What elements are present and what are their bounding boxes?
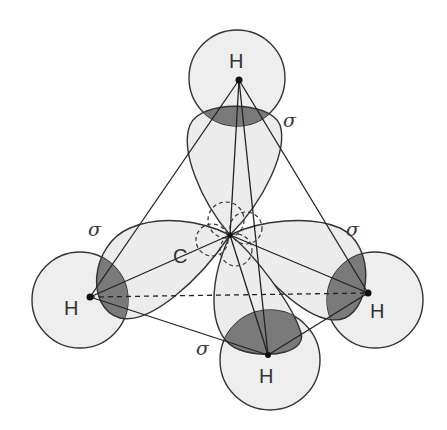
sigma-left: σ xyxy=(88,218,102,240)
label-h-bottom: H xyxy=(259,365,273,387)
h-bottom-nucleus xyxy=(265,352,271,358)
methane-orbital-diagram: H H H H C σ σ σ σ xyxy=(0,0,447,430)
sigma-top: σ xyxy=(283,109,297,131)
h-right-nucleus xyxy=(365,290,372,297)
label-h-right: H xyxy=(370,300,384,322)
carbon-sp3-lobes xyxy=(97,106,366,354)
label-h-left: H xyxy=(64,297,78,319)
label-h-top: H xyxy=(229,50,243,72)
sigma-bottom: σ xyxy=(196,337,210,359)
label-carbon: C xyxy=(173,245,187,267)
h-top-nucleus xyxy=(236,77,243,84)
h-left-nucleus xyxy=(87,294,94,301)
c-nucleus xyxy=(228,233,233,238)
sigma-right: σ xyxy=(346,218,360,240)
